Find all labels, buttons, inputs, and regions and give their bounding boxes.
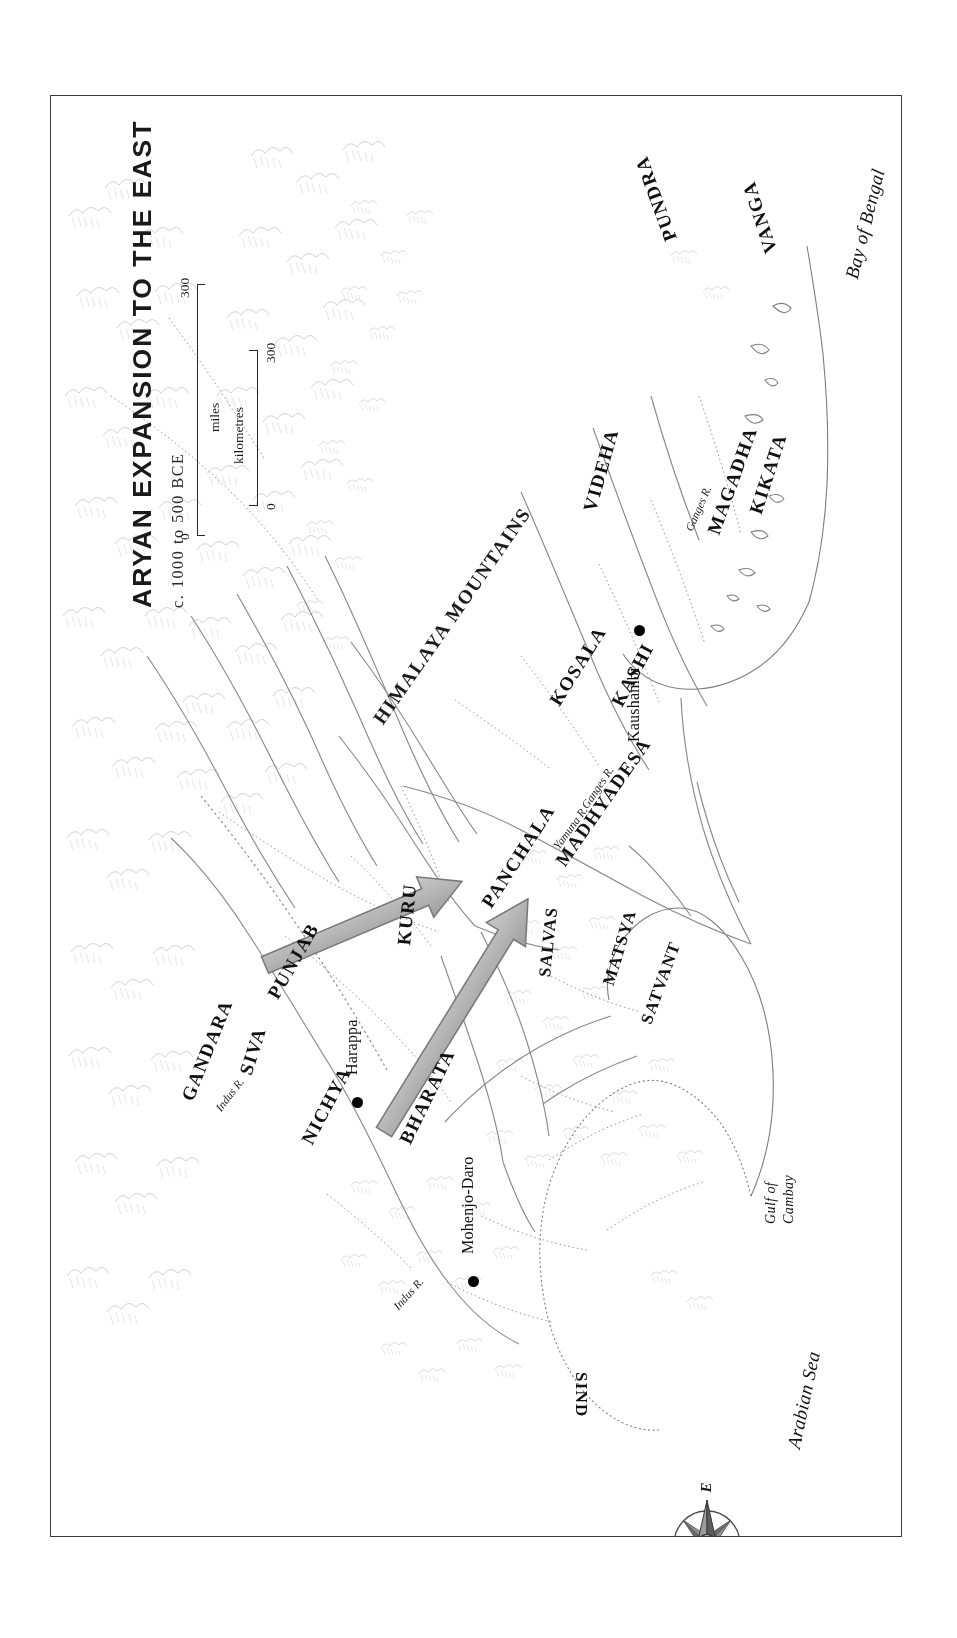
compass-rose: E S W N [659, 1496, 755, 1537]
scale-miles-max: 300 [177, 278, 193, 298]
city-dot-harappa [352, 1097, 363, 1108]
scale-miles-min: 0 [177, 533, 193, 540]
map-frame: Mohenjo-Daro Harappa Kaushambi GANDARA S… [50, 95, 902, 1537]
city-dot-mohenjo-daro [468, 1276, 479, 1287]
scale-km-min: 0 [263, 503, 279, 510]
scale-km-max: 300 [263, 343, 279, 363]
scale-bars: 0 300 miles 0 300 kilometres [163, 206, 293, 536]
city-dot-kaushambi [634, 625, 645, 636]
compass-label-east: E [698, 1482, 715, 1492]
compass-rose-star [659, 1496, 755, 1537]
migration-arrow-northern [256, 861, 470, 985]
scale-km-unit: kilometres [231, 407, 247, 464]
map-page: Mohenjo-Daro Harappa Kaushambi GANDARA S… [0, 0, 957, 1638]
scale-bar-miles: 0 300 miles [197, 284, 231, 536]
scale-bar-kilometres: 0 300 kilometres [257, 350, 291, 506]
scale-miles-unit: miles [207, 403, 223, 432]
migration-arrow-southern [364, 887, 547, 1144]
